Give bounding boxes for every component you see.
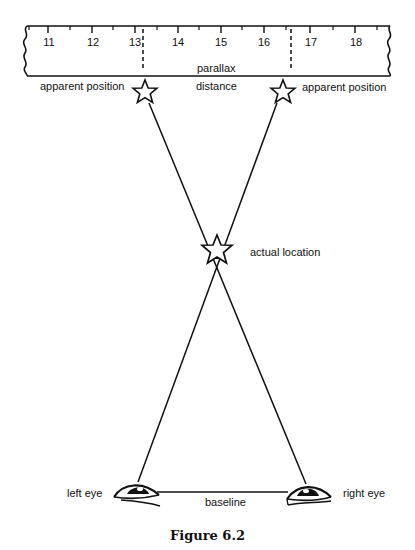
- distance-label: distance: [196, 80, 237, 92]
- star-outline-icon: [133, 80, 157, 103]
- ruler-right-break: [387, 26, 390, 76]
- ruler-left-break: [23, 26, 27, 76]
- figure-caption: Figure 6.2: [0, 528, 415, 543]
- ruler-tick-label: 15: [215, 36, 227, 48]
- ruler-tick-label: 17: [305, 36, 317, 48]
- baseline-label: baseline: [205, 496, 246, 508]
- ruler-tick-label: 11: [43, 36, 54, 48]
- apparent-position-left-label: apparent position: [40, 80, 124, 92]
- ruler-tick-label: 16: [258, 36, 270, 48]
- actual-location-label: actual location: [250, 246, 320, 258]
- star-outline-icon: [271, 80, 295, 103]
- left-eye-label: left eye: [67, 487, 102, 499]
- right-eye-label: right eye: [343, 487, 385, 499]
- ruler-tick-label: 13: [129, 36, 141, 48]
- parallax-label: parallax: [197, 62, 236, 74]
- ruler-tick-label: 14: [172, 36, 184, 48]
- eye-icon: [287, 487, 331, 505]
- eye-icon: [114, 485, 160, 506]
- sight-line-left-eye: [138, 103, 277, 482]
- sight-line-right-eye: [149, 103, 306, 484]
- ruler-tick-label: 18: [350, 36, 362, 48]
- ruler-major-ticks: [48, 26, 355, 33]
- sight-lines: [138, 103, 306, 484]
- apparent-position-right-label: apparent position: [302, 81, 386, 93]
- ruler-tick-label: 12: [87, 36, 99, 48]
